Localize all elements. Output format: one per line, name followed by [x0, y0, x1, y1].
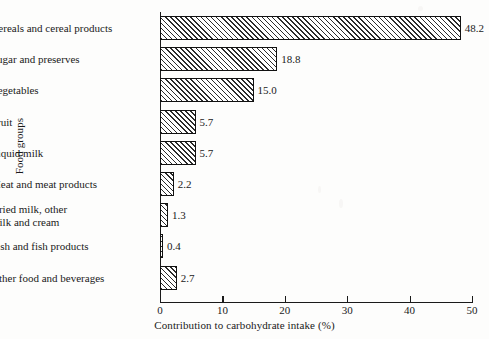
- x-tick-label: 30: [332, 304, 362, 316]
- x-tick-label: 0: [145, 304, 175, 316]
- category-label-line: Fruit: [0, 115, 151, 128]
- bar: [160, 172, 174, 196]
- bar-value-label: 5.7: [196, 116, 214, 128]
- bar-value-label: 5.7: [196, 147, 214, 159]
- bar-value-label: 1.3: [168, 209, 186, 221]
- scan-artifact: [418, 6, 423, 11]
- category-label: Vegetables: [0, 84, 151, 97]
- category-label-line: Dried milk, other: [0, 203, 151, 216]
- category-label: Cereals and cereal products: [0, 22, 151, 35]
- x-tick: [410, 296, 411, 303]
- x-tick: [472, 296, 473, 303]
- plot-area: Cereals and cereal products48.2Sugar and…: [160, 12, 472, 302]
- bar-value-label: 48.2: [461, 22, 484, 34]
- bar: [160, 16, 461, 40]
- x-tick: [160, 296, 161, 303]
- bar-row: Fruit5.7: [160, 110, 472, 134]
- bar-row: Liquid milk5.7: [160, 141, 472, 165]
- bar-row: Fish and fish products0.4: [160, 234, 472, 258]
- category-label-line: Vegetables: [0, 84, 151, 97]
- category-label-line: Sugar and preserves: [0, 53, 151, 66]
- bar-value-label: 18.8: [277, 53, 300, 65]
- bar: [160, 47, 277, 71]
- category-label: Other food and beverages: [0, 271, 151, 284]
- category-label: Sugar and preserves: [0, 53, 151, 66]
- bar-chart: Food groups Cereals and cereal products4…: [0, 0, 489, 339]
- x-tick: [347, 296, 348, 303]
- bar: [160, 141, 196, 165]
- bar: [160, 266, 177, 290]
- category-label: Fruit: [0, 115, 151, 128]
- category-label: Dried milk, othermilk and cream: [0, 203, 151, 228]
- category-label-line: Other food and beverages: [0, 271, 151, 284]
- bar-row: Other food and beverages2.7: [160, 266, 472, 290]
- bar: [160, 110, 196, 134]
- x-axis-title: Contribution to carbohydrate intake (%): [0, 319, 489, 331]
- bar-row: Cereals and cereal products48.2: [160, 16, 472, 40]
- x-tick-label: 40: [395, 304, 425, 316]
- bar-value-label: 2.7: [177, 272, 195, 284]
- category-label: Meat and meat products: [0, 178, 151, 191]
- bar-value-label: 2.2: [174, 178, 192, 190]
- bar: [160, 78, 254, 102]
- category-label-line: Meat and meat products: [0, 178, 151, 191]
- bar-value-label: 0.4: [163, 240, 181, 252]
- x-tick-label: 20: [270, 304, 300, 316]
- bar-value-label: 15.0: [254, 84, 277, 96]
- category-label-line: Fish and fish products: [0, 240, 151, 253]
- x-tick: [285, 296, 286, 303]
- category-label: Liquid milk: [0, 147, 151, 160]
- x-tick-label: 50: [457, 304, 487, 316]
- x-tick-label: 10: [207, 304, 237, 316]
- category-label: Fish and fish products: [0, 240, 151, 253]
- x-tick: [222, 296, 223, 303]
- bar-row: Vegetables15.0: [160, 78, 472, 102]
- bar: [160, 203, 168, 227]
- category-label-line: Liquid milk: [0, 147, 151, 160]
- bar-row: Meat and meat products2.2: [160, 172, 472, 196]
- category-label-line: milk and cream: [0, 215, 151, 228]
- bar-row: Sugar and preserves18.8: [160, 47, 472, 71]
- category-label-line: Cereals and cereal products: [0, 22, 151, 35]
- bar-row: Dried milk, othermilk and cream1.3: [160, 203, 472, 227]
